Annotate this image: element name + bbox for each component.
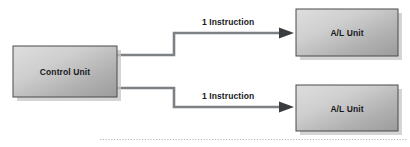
alu-top-box [296, 9, 398, 56]
diagram-canvas: Control Unit A/L Unit A/L Unit 1 Instruc… [0, 0, 410, 147]
edge-top-line [117, 33, 280, 55]
edge-bottom-arrowhead-icon [279, 102, 294, 113]
edge-bottom-line [117, 88, 280, 107]
edge-top-connector [117, 28, 294, 56]
edge-top-label: 1 Instruction [202, 17, 254, 27]
edge-top-arrowhead-icon [279, 28, 294, 39]
control-unit-box [13, 46, 117, 97]
alu-bottom-box [296, 85, 398, 131]
edge-bottom-label: 1 Instruction [202, 91, 254, 101]
node-alu-bottom[interactable] [296, 85, 402, 135]
node-control-unit[interactable] [13, 46, 121, 101]
node-alu-top[interactable] [296, 9, 402, 60]
